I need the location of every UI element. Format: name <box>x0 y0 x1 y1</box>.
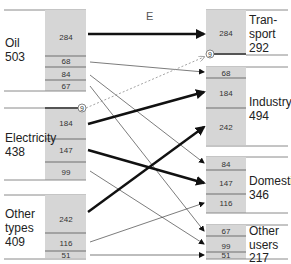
oil-seg-transport: 284 <box>59 33 73 42</box>
oil-total: 503 <box>5 50 25 64</box>
otherusers-label-2: users <box>249 238 278 252</box>
other-types-label-1: Other <box>5 207 35 221</box>
source-oil: 284 68 84 67 Oil 503 <box>4 10 86 91</box>
flows <box>86 34 204 255</box>
other-seg-otherusers: 51 <box>62 251 71 260</box>
industry-total: 494 <box>249 109 269 123</box>
source-electricity: 9 184 147 99 Electricity 438 <box>4 104 86 180</box>
other-seg-domestic: 116 <box>60 239 73 248</box>
oil-seg-industry: 68 <box>62 57 71 66</box>
domestic-seg-oil: 84 <box>222 160 231 169</box>
flow-elec-domestic <box>88 150 204 183</box>
flow-elec-otherusers <box>90 171 204 244</box>
flow-other-industry <box>88 127 204 212</box>
otherusers-label-1: Other <box>249 224 279 238</box>
elec-seg-other: 99 <box>62 168 71 177</box>
flow-oil-industry <box>90 62 204 72</box>
oil-seg-domestic: 84 <box>62 70 71 79</box>
sankey-diagram: E 284 68 84 67 Oil 503 9 184 147 99 Elec… <box>0 0 291 264</box>
electricity-label: Electricity <box>5 131 56 145</box>
transport-label-2: sport <box>249 27 276 41</box>
domestic-seg-elec: 147 <box>219 179 233 188</box>
target-domestic: 84 147 116 Domestic 346 <box>206 157 291 213</box>
domestic-seg-other: 116 <box>220 199 233 208</box>
oil-seg-other: 67 <box>62 82 71 91</box>
elec-seg-industry: 184 <box>59 119 73 128</box>
otherusers-seg-oil: 67 <box>222 227 231 236</box>
domestic-label: Domestic <box>249 174 291 188</box>
transport-seg-oil: 284 <box>219 29 233 38</box>
source-other-types: 242 116 51 Other types 409 <box>4 195 86 260</box>
target-other-users: 67 99 51 Other users 217 <box>206 224 288 264</box>
otherusers-total: 217 <box>249 251 269 264</box>
flow-other-domestic <box>90 203 204 242</box>
industry-seg-other: 242 <box>219 123 233 132</box>
transport-label-1: Tran- <box>249 13 277 27</box>
otherusers-seg-other: 51 <box>222 251 231 260</box>
diagram-label-e: E <box>146 10 153 22</box>
industry-label: Industry <box>249 95 291 109</box>
flow-elec-transport <box>86 57 204 108</box>
other-seg-industry: 242 <box>59 215 73 224</box>
elec-seg-domestic: 147 <box>59 146 73 155</box>
flow-elec-industry <box>88 92 204 124</box>
target-industry: 68 184 242 Industry 494 <box>206 67 291 146</box>
otherusers-seg-elec: 99 <box>222 242 231 251</box>
other-types-label-2: types <box>5 221 34 235</box>
transport-total: 292 <box>249 41 269 55</box>
domestic-total: 346 <box>249 188 269 202</box>
electricity-total: 438 <box>5 145 25 159</box>
elec-seg-transport: 9 <box>80 105 84 112</box>
transport-seg-elec: 9 <box>208 51 212 58</box>
other-types-total: 409 <box>5 235 25 249</box>
oil-label: Oil <box>5 36 20 50</box>
industry-seg-oil: 68 <box>222 69 231 78</box>
industry-seg-elec: 184 <box>219 89 233 98</box>
target-transport: 9 284 Tran- sport 292 <box>206 10 288 58</box>
